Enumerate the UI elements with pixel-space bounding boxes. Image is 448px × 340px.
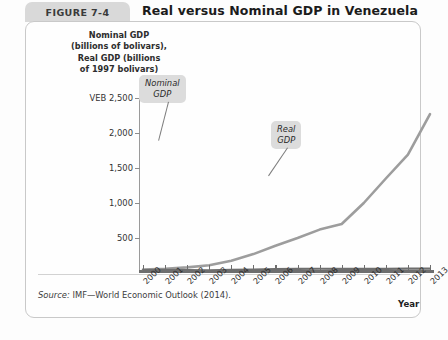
y-tick-mark [135,238,140,239]
x-tick-mark [298,265,299,270]
x-tick-mark [209,265,210,270]
callout-nominal-gdp: NominalGDP [139,75,186,103]
callout-line2: GDP [277,135,295,146]
x-axis-title: Year [398,299,419,309]
source-text: IMF—World Economic Outlook (2014). [70,290,231,300]
callout-line1: Nominal [145,78,180,89]
figure-card: Nominal GDP (billions of bolivars), Real… [25,21,421,318]
x-tick-mark [165,265,166,270]
x-tick-mark [320,265,321,270]
source-word: Source: [38,290,70,300]
y-tick-mark [135,133,140,134]
figure-page: FIGURE 7-4 Real versus Nominal GDP in Ve… [0,0,448,340]
figure-number-tab: FIGURE 7-4 [25,2,130,22]
x-tick-mark [143,265,144,270]
callout-line1: Real [277,124,295,135]
y-axis-title-line3: Real GDP (billions [78,53,161,63]
figure-number-label: FIGURE 7-4 [46,7,110,18]
y-axis-tick-labels: VEB 2,5002,0001,5001,000500 [26,98,139,273]
y-tick-label: 1,500 [109,163,133,173]
callout-real-gdp: RealGDP [271,121,301,149]
y-axis-title-line1: Nominal GDP [89,30,149,40]
x-tick-mark [386,265,387,270]
y-tick-mark [135,203,140,204]
x-tick-mark [342,265,343,270]
y-axis-title-line2: (billions of bolivars), [71,41,167,51]
x-tick-mark [275,265,276,270]
y-tick-mark [135,168,140,169]
figure-title: Real versus Nominal GDP in Venezuela [142,3,418,18]
y-axis-title-line4: of 1997 bolivars) [80,64,158,74]
x-tick-mark [408,265,409,270]
callout-line2: GDP [145,89,180,100]
x-tick-mark [364,265,365,270]
y-tick-label: VEB 2,500 [90,93,133,103]
y-tick-label: 1,000 [109,198,133,208]
x-tick-mark [253,265,254,270]
y-axis-title: Nominal GDP (billions of bolivars), Real… [44,30,194,76]
x-tick-mark [430,265,431,270]
y-tick-label: 500 [117,233,133,243]
source-note: Source: IMF—World Economic Outlook (2014… [38,290,231,300]
y-tick-label: 2,000 [109,128,133,138]
x-tick-mark [231,265,232,270]
x-tick-mark [187,265,188,270]
